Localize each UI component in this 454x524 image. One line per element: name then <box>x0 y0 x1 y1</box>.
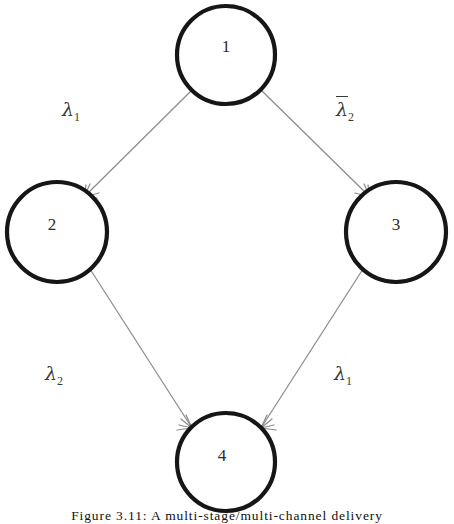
lambda-subscript: 1 <box>346 374 352 388</box>
lambda-subscript: 2 <box>348 110 354 124</box>
edge-label-1-to-2: λ1 <box>62 100 80 123</box>
edge-label-2-to-4: λ2 <box>45 364 63 387</box>
node-2[interactable]: 2 <box>7 182 107 282</box>
node-4[interactable]: 4 <box>177 413 275 511</box>
node-2-label: 2 <box>48 215 57 234</box>
figure-caption: Figure 3.11: A multi-stage/multi-channel… <box>0 508 454 524</box>
node-1-label: 1 <box>222 37 231 56</box>
lambda-glyph: λ <box>334 362 346 384</box>
node-1[interactable]: 1 <box>177 6 275 104</box>
figure-canvas: 1 2 3 4 λ1 λ2 λ2 λ1 Figure 3.11: A multi… <box>0 0 454 524</box>
node-3-label: 3 <box>392 215 401 234</box>
edge-1-to-2 <box>84 90 192 198</box>
lambda-glyph-overline: λ <box>336 96 348 120</box>
lambda-subscript: 2 <box>57 374 63 388</box>
edge-2-to-4 <box>90 269 192 430</box>
lambda-glyph: λ <box>45 362 57 384</box>
node-4-label: 4 <box>218 446 227 465</box>
graph-svg: 1 2 3 4 <box>0 0 454 524</box>
edge-label-1-to-3: λ2 <box>336 100 354 123</box>
edge-label-3-to-4: λ1 <box>334 364 352 387</box>
lambda-subscript: 1 <box>74 110 80 124</box>
lambda-glyph: λ <box>62 98 74 120</box>
node-3[interactable]: 3 <box>346 182 446 282</box>
edge-3-to-4 <box>261 269 363 430</box>
